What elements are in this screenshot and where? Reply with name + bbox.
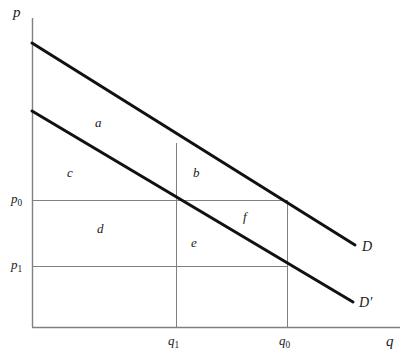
tick-label-q1-sub: 1	[175, 340, 180, 350]
demand-curve-d	[32, 43, 355, 245]
curve-label-d-text: D	[362, 239, 372, 254]
tick-label-p1: p1	[11, 258, 22, 274]
curve-label-d-prime-text: D	[359, 295, 369, 310]
curve-label-d-prime: D′	[359, 296, 372, 310]
demand-curve-diagram: p q p0 p1 q1 q0 D D′ a c b d e f	[0, 0, 409, 357]
x-axis-label: q	[386, 334, 394, 349]
tick-label-q0: q0	[279, 334, 290, 350]
demand-curve-d-prime	[32, 111, 353, 302]
y-axis-label: p	[13, 5, 21, 20]
region-label-b: b	[193, 166, 200, 179]
region-label-e: e	[191, 236, 197, 249]
region-label-a: a	[95, 116, 102, 129]
axes	[32, 18, 400, 328]
tick-label-q1: q1	[168, 334, 179, 350]
curve-label-d-prime-mark: ′	[369, 295, 372, 310]
curve-label-d: D	[362, 240, 372, 254]
tick-label-p0-sub: 0	[18, 198, 23, 208]
diagram-canvas	[0, 0, 409, 357]
tick-label-p0: p0	[11, 192, 22, 208]
tick-label-q0-sub: 0	[286, 340, 291, 350]
region-label-d: d	[97, 222, 104, 235]
region-label-c: c	[67, 166, 73, 179]
region-label-f: f	[243, 210, 247, 223]
tick-label-p1-sub: 1	[18, 264, 23, 274]
